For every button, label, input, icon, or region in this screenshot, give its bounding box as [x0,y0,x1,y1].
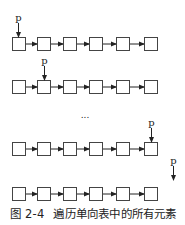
list-node [145,81,158,94]
list-node [90,38,103,51]
list-node [117,81,130,94]
list-node [90,143,103,156]
list-node [145,38,158,51]
list-node [38,188,51,201]
list-node [64,81,77,94]
linked-list-traversal-diagram: pppp ... [0,0,185,205]
pointer-label: p [170,155,176,166]
list-node [13,188,26,201]
list-node [64,38,77,51]
list-node [13,38,26,51]
pointer-label: p [41,55,47,66]
caption-number: 图 2-4 [10,207,44,221]
list-row-1: p [13,12,158,51]
pointer-label: p [15,12,21,23]
list-node [117,143,130,156]
list-node [90,188,103,201]
list-node [38,143,51,156]
ellipsis: ... [81,110,90,120]
list-row-3: p [13,117,158,156]
pointer-label: p [148,117,154,128]
list-node [64,188,77,201]
figure-caption: 图 2-4遍历单向表中的所有元素 [10,205,185,221]
list-node [38,38,51,51]
list-row-2: p [13,55,158,94]
list-node [64,143,77,156]
list-node [117,38,130,51]
list-node [13,143,26,156]
list-node [38,81,51,94]
caption-text: 遍历单向表中的所有元素 [53,207,176,221]
list-row-4: p [13,155,177,201]
list-node [90,81,103,94]
list-node [13,81,26,94]
list-node [117,188,130,201]
list-node [145,188,158,201]
list-node [145,143,158,156]
